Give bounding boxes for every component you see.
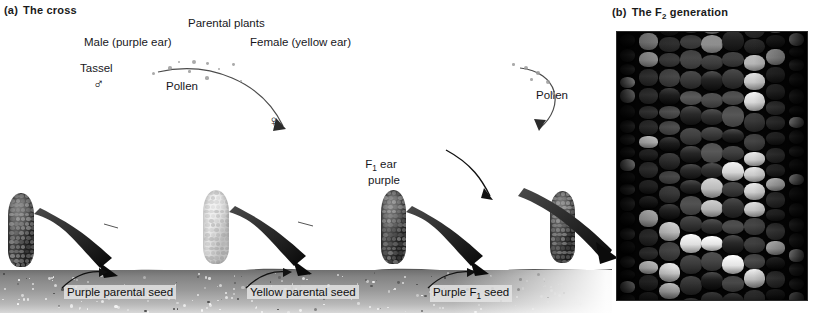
photo-kernel xyxy=(766,209,784,221)
photo-kernel xyxy=(639,247,657,260)
pollen-grain xyxy=(524,66,528,70)
photo-kernel xyxy=(659,242,680,261)
photo-kernel xyxy=(789,263,804,277)
photo-kernel xyxy=(659,88,680,105)
photo-kernel xyxy=(659,53,680,67)
photo-kernel xyxy=(722,293,744,301)
planting-arrow-3 xyxy=(406,206,483,266)
planting-arrowhead-2 xyxy=(293,260,312,276)
pollen-arc-left xyxy=(158,69,283,126)
photo-kernel xyxy=(722,276,744,292)
f2-generation-photo xyxy=(616,31,808,301)
photo-kernel xyxy=(639,52,657,66)
pollen-arrowhead-right xyxy=(534,119,546,131)
photo-kernel xyxy=(789,249,804,261)
photo-kernel xyxy=(620,270,635,280)
photo-kernel xyxy=(680,180,702,195)
photo-kernel xyxy=(789,130,804,144)
photo-kernel xyxy=(744,113,765,131)
photo-kernel xyxy=(680,128,702,145)
photo-kernel xyxy=(680,50,702,69)
photo-kernel xyxy=(722,255,744,274)
photo-kernel xyxy=(766,67,784,83)
photo-kernel xyxy=(701,35,724,54)
photo-kernel xyxy=(789,292,804,301)
planting-arrow-2 xyxy=(229,206,306,266)
pollen-arc-right xyxy=(520,68,555,128)
photo-kernel xyxy=(701,55,724,70)
photo-kernel xyxy=(789,187,804,202)
photo-kernel xyxy=(620,31,635,32)
photo-kernel xyxy=(620,241,635,254)
photo-kernel xyxy=(620,184,635,195)
pollen-grain xyxy=(168,66,172,70)
photo-kernel xyxy=(620,64,635,75)
photo-kernel xyxy=(722,220,744,234)
photo-kernel xyxy=(620,89,635,102)
photo-kernel xyxy=(789,233,804,248)
photo-kernel xyxy=(722,198,744,218)
photo-kernel xyxy=(722,162,744,180)
pollen-grain xyxy=(188,70,191,73)
photo-kernel xyxy=(766,257,784,270)
photo-kernel xyxy=(701,127,724,141)
pollen-grain xyxy=(552,92,555,95)
photo-kernel xyxy=(744,152,765,166)
photo-kernel xyxy=(659,137,680,152)
photo-kernel xyxy=(659,31,680,36)
photo-kernel xyxy=(620,212,635,226)
pollen-grain xyxy=(512,63,515,66)
photo-kernel xyxy=(680,276,702,295)
germination-arrow-3 xyxy=(428,272,472,288)
photo-kernel xyxy=(680,146,702,163)
photo-kernel xyxy=(766,116,784,130)
kernel-column xyxy=(744,31,765,301)
ear-pointer-1 xyxy=(104,224,118,228)
photo-kernel xyxy=(620,134,635,145)
photo-kernel xyxy=(639,106,657,119)
germination-arrow-1 xyxy=(62,272,104,288)
photo-kernel xyxy=(659,106,680,119)
photo-kernel xyxy=(620,281,635,293)
photo-kernel xyxy=(744,73,765,90)
photo-kernel xyxy=(639,180,657,193)
photo-kernel xyxy=(789,117,804,128)
photo-kernel xyxy=(789,89,804,104)
photo-kernel xyxy=(722,52,744,67)
kernel-column xyxy=(680,31,702,301)
photo-kernel xyxy=(659,204,680,220)
photo-kernel xyxy=(680,164,702,179)
photo-kernel xyxy=(766,192,784,207)
photo-kernel xyxy=(620,172,635,183)
photo-kernel xyxy=(659,153,680,170)
photo-kernel xyxy=(680,91,702,105)
ear-pointer-2 xyxy=(298,222,313,226)
kernel-column xyxy=(789,31,804,301)
pollen-grain xyxy=(530,78,533,81)
photo-kernel xyxy=(722,31,744,50)
photo-kernel xyxy=(701,143,724,163)
photo-kernel xyxy=(680,216,702,231)
photo-kernel xyxy=(639,275,657,291)
pollen-grain xyxy=(536,71,540,75)
photo-kernel xyxy=(701,109,724,124)
photo-kernel xyxy=(766,164,784,177)
planting-arrow-1 xyxy=(34,208,112,268)
photo-kernel xyxy=(744,269,765,288)
photo-kernel xyxy=(766,132,784,146)
photo-kernel xyxy=(789,174,804,185)
kernel-column xyxy=(722,31,744,301)
photo-kernel xyxy=(789,203,804,216)
photo-kernel xyxy=(639,33,657,50)
photo-kernel xyxy=(722,69,744,89)
photo-kernel xyxy=(766,289,784,301)
photo-kernel xyxy=(744,254,765,268)
photo-kernel xyxy=(766,241,784,254)
photo-kernel xyxy=(659,69,680,87)
photo-kernel xyxy=(722,146,744,162)
photo-kernel xyxy=(620,159,635,171)
photo-kernel xyxy=(659,222,680,241)
photo-kernel xyxy=(639,88,657,104)
photo-kernel xyxy=(620,34,635,48)
photo-kernel xyxy=(680,298,702,301)
